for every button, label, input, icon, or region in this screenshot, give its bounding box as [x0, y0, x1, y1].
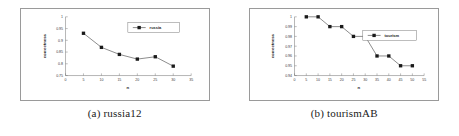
x-tick-label: 15: [328, 78, 332, 82]
figure-panel-a: 10.950.90.850.80.7505101520253035 correc…: [0, 0, 230, 136]
data-point-marker: [117, 53, 120, 56]
y-tick-label: 0.94: [285, 74, 292, 78]
y-axis-title-b: correctness: [270, 33, 275, 58]
caption-tourismab: (b) tourismAB: [311, 107, 378, 119]
figure-panel-b: 10.990.980.970.960.950.94051015202530354…: [230, 0, 459, 136]
data-point-marker: [399, 64, 402, 67]
legend-russia[interactable]: russia: [128, 23, 179, 33]
y-tick-label: 0.75: [56, 74, 63, 78]
legend-marker-a: [137, 26, 140, 29]
legend-label-russia: russia: [149, 25, 161, 30]
x-tick-label: 30: [363, 78, 367, 82]
series-group-tourism: [305, 15, 414, 67]
y-tick-label: 0.8: [58, 62, 63, 66]
x-tick-label: 10: [316, 78, 320, 82]
data-point-marker: [153, 55, 156, 58]
x-tick-label: 50: [411, 78, 415, 82]
x-tick-label: 35: [375, 78, 379, 82]
y-tick-label: 0.96: [285, 54, 292, 58]
x-tick-label: 10: [99, 78, 103, 82]
x-tick-label: 25: [352, 78, 356, 82]
axis-ticks-b: 10.990.980.970.960.950.94051015202530354…: [285, 15, 426, 82]
data-point-marker: [171, 64, 174, 67]
y-tick-label: 0.95: [285, 64, 292, 68]
data-point-marker: [100, 46, 103, 49]
y-tick-label: 0.9: [58, 39, 63, 43]
x-tick-label: 45: [399, 78, 403, 82]
x-tick-label: 20: [340, 78, 344, 82]
y-tick-label: 0.95: [56, 27, 63, 31]
x-tick-label: 20: [135, 78, 139, 82]
chart-russia12: 10.950.90.850.80.7505101520253035 correc…: [21, 9, 209, 100]
x-tick-label: 5: [306, 78, 308, 82]
caption-russia12: (a) russia12: [88, 107, 142, 119]
x-tick-label: 25: [153, 78, 157, 82]
data-point-marker: [135, 57, 138, 60]
data-point-marker: [340, 25, 343, 28]
y-tick-label: 1: [61, 15, 63, 19]
y-tick-label: 0.99: [285, 25, 292, 29]
x-tick-label: 15: [117, 78, 121, 82]
data-point-marker: [328, 25, 331, 28]
data-point-marker: [305, 15, 308, 18]
y-tick-label: 0.85: [56, 50, 63, 54]
chart-tourismab: 10.990.980.970.960.950.94051015202530354…: [250, 9, 438, 100]
data-point-marker: [387, 54, 390, 57]
x-axis-title-b: n: [358, 85, 361, 90]
x-tick-label: 5: [82, 78, 84, 82]
series-line: [307, 17, 413, 66]
series-line: [83, 33, 173, 66]
legend-tourism[interactable]: tourism: [363, 31, 416, 41]
y-tick-label: 0.98: [285, 35, 292, 39]
data-point-marker: [317, 15, 320, 18]
legend-marker-b: [373, 34, 376, 37]
x-tick-label: 0: [64, 78, 66, 82]
x-tick-label: 35: [189, 78, 193, 82]
series-group-russia: [82, 32, 175, 68]
x-tick-label: 30: [171, 78, 175, 82]
data-point-marker: [376, 54, 379, 57]
data-point-marker: [82, 32, 85, 35]
chart-frame-tourismab: 10.990.980.970.960.950.94051015202530354…: [249, 8, 439, 101]
data-point-marker: [352, 35, 355, 38]
x-tick-label: 0: [294, 78, 296, 82]
x-tick-label: 40: [387, 78, 391, 82]
x-axis-title-a: n: [126, 85, 129, 90]
y-tick-label: 1: [290, 15, 292, 19]
data-point-marker: [411, 64, 414, 67]
legend-label-tourism: tourism: [385, 33, 400, 38]
y-tick-label: 0.97: [285, 45, 292, 49]
y-axis-title-a: correctness: [41, 33, 46, 58]
chart-frame-russia12: 10.950.90.850.80.7505101520253035 correc…: [20, 8, 210, 101]
x-tick-label: 55: [422, 78, 426, 82]
figure-row: 10.950.90.850.80.7505101520253035 correc…: [0, 0, 459, 136]
